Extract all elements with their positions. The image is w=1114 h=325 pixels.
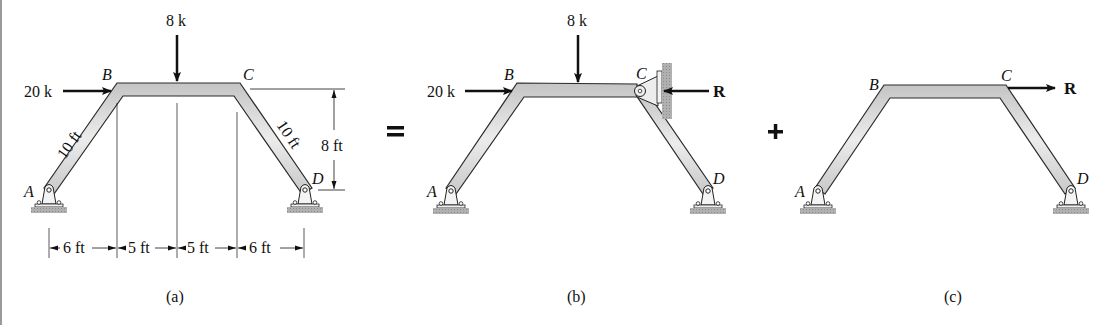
load-label-8k: 8 k (166, 12, 186, 29)
equals-sign (387, 126, 404, 137)
frame-member-abcd (815, 85, 1075, 194)
caption-b: (b) (567, 288, 586, 306)
panel-c: A B C D R (c) (794, 67, 1089, 306)
span-label-2: 5 ft (128, 239, 150, 256)
pin-support-a (433, 186, 469, 215)
frame-member-cd (636, 92, 713, 194)
node-label-a: A (794, 183, 805, 200)
span-label-4: 6 ft (249, 239, 271, 256)
reaction-label-r: R (1064, 79, 1077, 98)
dim-label-height: 8 ft (321, 137, 343, 154)
node-label-b: B (102, 66, 112, 83)
panel-a: A B C D 20 k 8 k 10 ft 10 ft 8 ft 6 ft (23, 12, 345, 306)
node-label-b: B (504, 66, 514, 83)
node-label-d: D (311, 170, 324, 187)
pin-support-a (31, 185, 67, 214)
caption-c: (c) (944, 288, 962, 306)
span-label-3: 5 ft (187, 239, 209, 256)
span-dimensions: 6 ft 5 ft 5 ft 6 ft (50, 239, 303, 256)
caption-a: (a) (166, 288, 184, 306)
load-label-20k: 20 k (24, 83, 52, 100)
node-label-b: B (869, 76, 879, 93)
panel-b: A B C D 20 k 8 k R (b) (426, 12, 726, 306)
pin-support-d (690, 186, 726, 215)
frame-member-abcd (44, 83, 312, 194)
node-label-d: D (712, 170, 725, 187)
node-label-c: C (636, 65, 647, 82)
plus-sign (768, 124, 783, 139)
reaction-label-r: R (713, 82, 726, 101)
load-label-20k: 20 k (427, 83, 455, 100)
node-label-c: C (1001, 67, 1012, 84)
node-label-a: A (426, 183, 437, 200)
load-label-8k: 8 k (567, 12, 587, 29)
span-label-1: 6 ft (63, 239, 85, 256)
pin-support-d (287, 185, 323, 214)
frame-member-abcd (446, 83, 637, 194)
pin-support-a (800, 186, 836, 215)
pin-support-d (1053, 186, 1089, 215)
node-label-a: A (23, 183, 34, 200)
superposition-diagram: A B C D 20 k 8 k 10 ft 10 ft 8 ft 6 ft (0, 0, 1114, 325)
node-label-c: C (243, 66, 254, 83)
node-label-d: D (1076, 170, 1089, 187)
